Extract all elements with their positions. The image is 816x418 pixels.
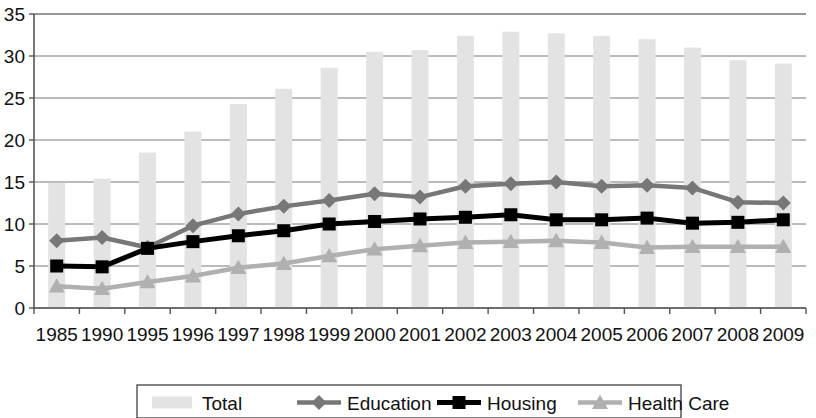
x-tick-label: 2009 (762, 324, 804, 345)
y-tick-label: 35 (4, 4, 25, 25)
square-marker (453, 396, 466, 409)
y-tick-label: 5 (14, 256, 25, 277)
x-tick-label: 2001 (399, 324, 441, 345)
square-marker (595, 213, 608, 226)
x-tick-label: 1990 (81, 324, 123, 345)
square-marker (504, 208, 517, 221)
y-tick-label: 10 (4, 214, 25, 235)
square-marker (731, 216, 744, 229)
total-bar (775, 64, 792, 308)
y-tick-label: 20 (4, 130, 25, 151)
total-bar (321, 68, 338, 308)
legend-swatch-total (152, 397, 192, 409)
total-bar (684, 48, 701, 308)
square-marker (232, 229, 245, 242)
y-tick-label: 25 (4, 88, 25, 109)
legend-label: Housing (487, 393, 557, 414)
square-marker (777, 213, 790, 226)
legend-label: Total (202, 393, 242, 414)
x-tick-label: 1997 (217, 324, 259, 345)
x-axis-tick-labels: 1985199019951996199719981999200020012002… (36, 324, 805, 345)
square-marker (368, 215, 381, 228)
x-tick-label: 1995 (126, 324, 168, 345)
y-tick-label: 0 (14, 298, 25, 319)
total-bar (275, 89, 292, 308)
x-tick-label: 1985 (36, 324, 78, 345)
x-tick-label: 2000 (353, 324, 395, 345)
total-bar (593, 36, 610, 308)
square-marker (641, 212, 654, 225)
x-tick-label: 2003 (490, 324, 532, 345)
square-marker (277, 224, 290, 237)
square-marker (550, 213, 563, 226)
total-bar (412, 50, 429, 308)
y-tick-label: 30 (4, 46, 25, 67)
square-marker (686, 217, 699, 230)
x-tick-label: 2008 (717, 324, 759, 345)
total-bar (502, 32, 519, 308)
chart-legend: TotalEducationHousingHealth Care (137, 385, 729, 418)
square-marker (96, 260, 109, 273)
legend-label: Education (347, 393, 432, 414)
total-bar (457, 36, 474, 308)
square-marker (50, 260, 63, 273)
x-tick-label: 1999 (308, 324, 350, 345)
x-tick-label: 1998 (263, 324, 305, 345)
total-bar (548, 33, 565, 308)
x-tick-label: 1996 (172, 324, 214, 345)
x-tick-label: 2007 (671, 324, 713, 345)
total-bar (639, 39, 656, 308)
square-marker (323, 218, 336, 231)
x-tick-label: 2002 (444, 324, 486, 345)
legend-label: Health Care (628, 393, 729, 414)
x-tick-label: 2004 (535, 324, 578, 345)
square-marker (141, 242, 154, 255)
y-tick-label: 15 (4, 172, 25, 193)
total-bar (366, 52, 383, 308)
square-marker (414, 212, 427, 225)
line-bar-combo-chart: 05101520253035 1985199019951996199719981… (0, 0, 816, 418)
total-bars-series (48, 32, 792, 308)
y-axis-tick-labels: 05101520253035 (4, 4, 25, 319)
x-tick-label: 2005 (581, 324, 623, 345)
square-marker (186, 235, 199, 248)
chart-container: 05101520253035 1985199019951996199719981… (0, 0, 816, 418)
total-bar (230, 104, 247, 308)
square-marker (459, 211, 472, 224)
x-tick-label: 2006 (626, 324, 668, 345)
total-bar (729, 60, 746, 308)
